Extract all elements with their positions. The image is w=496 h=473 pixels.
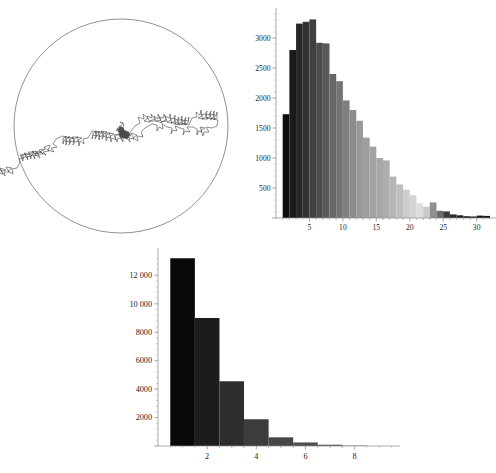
y-tick-label: 2000 [255,94,270,103]
y-tick-label: 10 000 [129,300,152,309]
histogram-bar [195,318,220,446]
bars-group [283,19,490,218]
x-tick-label: 2 [205,452,209,461]
histogram-bar [390,177,397,218]
x-tick-label: 20 [406,223,414,232]
x-tick-label: 25 [439,223,447,232]
x-tick-label: 6 [303,452,307,461]
y-tick-label: 1000 [255,154,270,163]
y-tick-label: 2500 [255,64,270,73]
histogram-bar [443,211,450,218]
y-tick-label: 2000 [136,413,152,422]
step-count-histogram-panel: 2468200040006000800010 00012 000 [96,238,406,473]
random-walk-trace [0,110,218,192]
histogram-bar [219,381,244,446]
y-tick-label: 1500 [255,124,270,133]
y-tick-label: 500 [259,184,271,193]
x-tick-label: 30 [473,223,481,232]
step-count-histogram-plot: 2468200040006000800010 00012 000 [96,238,406,473]
x-tick-label: 8 [353,452,357,461]
histogram-bar [396,184,403,218]
x-tick-label: 15 [373,223,381,232]
y-tick-label: 8000 [136,328,152,337]
histogram-bar [450,214,457,218]
y-tick-label: 6000 [136,356,152,365]
histogram-bar [350,110,357,218]
y-tick-label: 12 000 [129,271,152,280]
histogram-bar [383,160,390,218]
x-tick-label: 4 [254,452,258,461]
histogram-bar [316,43,323,218]
histogram-bar [330,74,337,218]
exit-time-histogram-plot: 5101520253050010001500200025003000 [252,0,496,240]
histogram-bar [289,50,296,218]
histogram-bar [356,121,363,218]
histogram-bar [437,211,444,218]
histogram-bar [477,216,484,218]
exit-time-histogram-panel: 5101520253050010001500200025003000 [252,0,496,240]
histogram-bar [363,138,370,218]
histogram-bar [244,419,269,446]
x-tick-label: 10 [339,223,347,232]
histogram-bar [303,22,310,218]
histogram-bar [376,158,383,218]
random-walk-panel [0,0,248,240]
histogram-bar [269,437,294,446]
histogram-bar [323,43,330,218]
random-walk-plot [0,0,248,240]
y-tick-label: 3000 [255,34,270,43]
histogram-bar [457,215,464,218]
histogram-bar [343,100,350,218]
y-tick-label: 4000 [136,385,152,394]
bars-group [170,258,367,446]
histogram-bar [423,207,430,218]
histogram-bar [370,147,377,218]
histogram-bar [336,81,343,218]
histogram-bar [403,190,410,218]
histogram-bar [416,203,423,218]
histogram-bar [430,202,437,218]
histogram-bar [293,442,318,446]
histogram-bar [296,24,303,218]
x-tick-label: 5 [308,223,312,232]
histogram-bar [309,19,316,218]
histogram-bar [410,195,417,218]
histogram-bar [170,258,195,446]
histogram-bar [283,114,290,218]
